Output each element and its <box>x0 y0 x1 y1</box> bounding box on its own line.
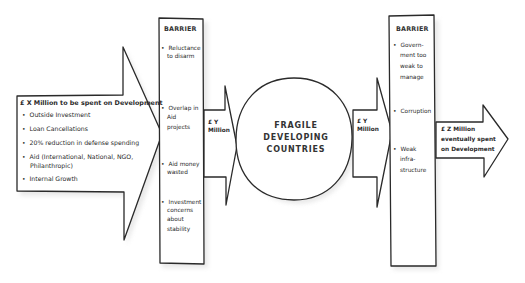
source-item: Aid (International, National, NGO, <box>22 152 133 161</box>
source-item: 20% reduction in defense spending <box>22 138 139 147</box>
output-line: £ Z Million <box>441 125 475 134</box>
circle-label-line: FRAGILE <box>250 120 342 132</box>
barrier-1-item-line: to disarm <box>167 52 194 61</box>
barrier-2-item: Weak <box>393 144 416 154</box>
arrow-y-2-unit: Million <box>357 125 379 134</box>
arrow-y-1 <box>204 86 237 205</box>
output-line: on Development <box>441 145 495 154</box>
barrier-1-item-line: Aid <box>167 113 176 122</box>
barrier-2-item-line: structure <box>400 166 426 175</box>
barrier-1-item-line: wasted <box>167 168 188 177</box>
barrier-2-item-line: manage <box>400 73 424 82</box>
barrier-2-item: Corruption <box>393 106 431 116</box>
barrier-1-item: Overlap in <box>161 103 198 113</box>
circle-label-line: COUNTRIES <box>250 144 342 156</box>
arrow-y-1-unit: Million <box>208 126 230 135</box>
barrier-2-item-line: infra- <box>400 155 415 164</box>
barrier-1-item-line: about <box>167 215 184 224</box>
output-line: eventually spent <box>441 135 496 144</box>
source-title: £ X Million to be spent on Development <box>20 99 163 108</box>
barrier-2-item-line: ment too <box>400 51 426 60</box>
fragile-countries-label: FRAGILE DEVELOPING COUNTRIES <box>250 120 342 156</box>
barrier-1-item-line: projects <box>167 123 190 132</box>
source-item-continuation: Philanthropic) <box>30 161 73 170</box>
arrow-y-2 <box>353 78 392 207</box>
barrier-1-item-line: stability <box>167 225 190 234</box>
barrier-2-item-line: weak to <box>400 62 423 71</box>
barrier-1-item-line: concerns <box>167 206 193 215</box>
source-item: Outside Investment <box>22 110 90 119</box>
circle-label-line: DEVELOPING <box>250 132 342 144</box>
barrier-1-header: BARRIER <box>164 25 197 33</box>
source-item: Internal Growth <box>22 174 78 183</box>
barrier-2-item: Govern- <box>393 40 424 50</box>
barrier-2-header: BARRIER <box>396 25 429 33</box>
source-item: Loan Cancellations <box>22 124 88 133</box>
